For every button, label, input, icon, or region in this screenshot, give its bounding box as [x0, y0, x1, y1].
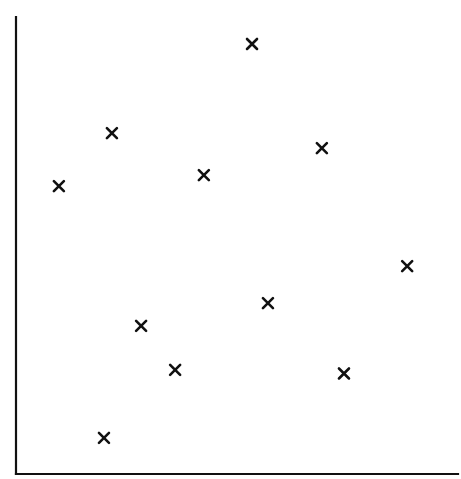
data-point-x-marker-icon [199, 170, 209, 180]
data-point-x-marker-icon [54, 181, 64, 191]
data-point-x-marker-icon [247, 39, 257, 49]
data-point-x-marker-icon [170, 365, 180, 375]
data-markers [54, 39, 412, 443]
data-point-x-marker-icon [317, 143, 327, 153]
data-point-x-marker-icon [99, 433, 109, 443]
scatter-chart [0, 0, 461, 479]
plot-area [0, 0, 461, 479]
data-point-x-marker-icon [136, 321, 146, 331]
data-point-x-marker-icon [339, 368, 349, 378]
data-point-x-marker-icon [402, 261, 412, 271]
data-point-x-marker-icon [107, 128, 117, 138]
data-point-x-marker-icon [263, 298, 273, 308]
